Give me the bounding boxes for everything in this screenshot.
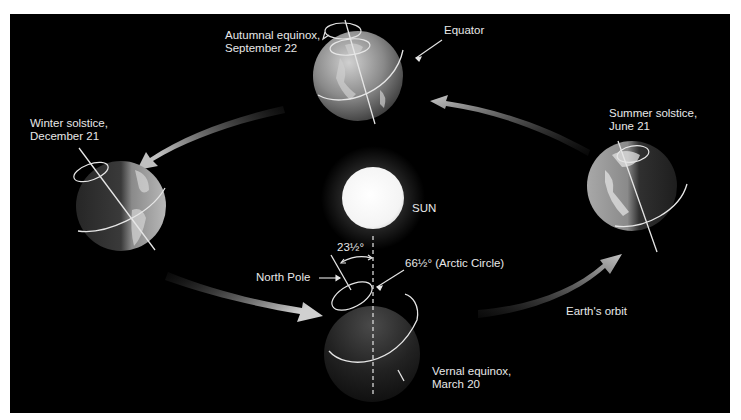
label-equator: Equator bbox=[444, 24, 484, 37]
earth-autumnal-equinox bbox=[313, 20, 403, 124]
label-north-pole: North Pole bbox=[256, 271, 310, 284]
earth-summer-solstice bbox=[587, 141, 687, 252]
label-vernal-line1: Vernal equinox, bbox=[432, 365, 511, 378]
label-autumnal-line2: September 22 bbox=[225, 42, 320, 55]
label-summer-line1: Summer solstice, bbox=[609, 107, 697, 120]
label-summer-line2: June 21 bbox=[609, 120, 697, 133]
label-sun: SUN bbox=[412, 202, 436, 215]
label-winter-line1: Winter solstice, bbox=[30, 117, 108, 130]
label-autumnal-equinox: Autumnal equinox, September 22 bbox=[225, 29, 320, 55]
sun bbox=[321, 146, 425, 250]
label-vernal-line2: March 20 bbox=[432, 378, 511, 391]
label-winter-line2: December 21 bbox=[30, 130, 108, 143]
orbit-arrow-top-left bbox=[137, 106, 285, 170]
orbit-arrow-top-right bbox=[430, 95, 590, 156]
label-earths-orbit: Earth's orbit bbox=[566, 305, 627, 318]
label-arctic-circle: 66½° (Arctic Circle) bbox=[405, 257, 504, 270]
label-vernal-equinox: Vernal equinox, March 20 bbox=[432, 365, 511, 391]
label-winter-solstice: Winter solstice, December 21 bbox=[30, 117, 108, 143]
label-autumnal-line1: Autumnal equinox, bbox=[225, 29, 320, 42]
label-tilt-angle: 23½° bbox=[337, 241, 364, 254]
seasons-diagram bbox=[0, 0, 741, 420]
label-summer-solstice: Summer solstice, June 21 bbox=[609, 107, 697, 133]
